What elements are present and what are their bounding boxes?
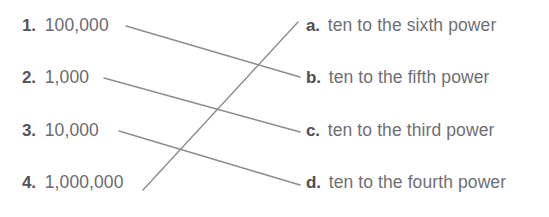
right-item-b-marker: b. [306,68,321,88]
left-item-1-marker: 1. [22,16,36,36]
connector-line-2-to-c [104,78,300,132]
left-item-2[interactable]: 2. 1,000 [22,67,89,88]
right-item-c-answer: ten to the third power [328,120,495,141]
right-item-b[interactable]: b. ten to the fifth power [306,67,490,88]
right-item-d-marker: d. [306,173,321,193]
right-item-a-answer: ten to the sixth power [328,15,497,36]
right-item-c[interactable]: c. ten to the third power [306,120,494,141]
left-item-4[interactable]: 4. 1,000,000 [22,172,124,193]
left-item-1-value: 100,000 [45,15,109,36]
right-item-d[interactable]: d. ten to the fourth power [306,172,506,193]
left-item-3[interactable]: 3. 10,000 [22,120,99,141]
left-item-2-marker: 2. [22,68,36,88]
left-item-3-marker: 3. [22,121,36,141]
connector-line-4-to-a [143,22,298,190]
right-item-b-answer: ten to the fifth power [329,67,490,88]
right-item-c-marker: c. [306,121,320,141]
left-item-4-value: 1,000,000 [45,172,124,193]
connector-line-1-to-b [126,26,300,77]
left-item-2-value: 1,000 [45,67,89,88]
matching-worksheet: 1. 100,000 2. 1,000 3. 10,000 4. 1,000,0… [0,0,549,217]
connector-line-3-to-d [119,131,300,185]
right-item-a-marker: a. [306,16,320,36]
right-item-a[interactable]: a. ten to the sixth power [306,15,496,36]
left-item-4-marker: 4. [22,173,36,193]
right-item-d-answer: ten to the fourth power [329,172,506,193]
left-item-3-value: 10,000 [45,120,99,141]
left-item-1[interactable]: 1. 100,000 [22,15,109,36]
